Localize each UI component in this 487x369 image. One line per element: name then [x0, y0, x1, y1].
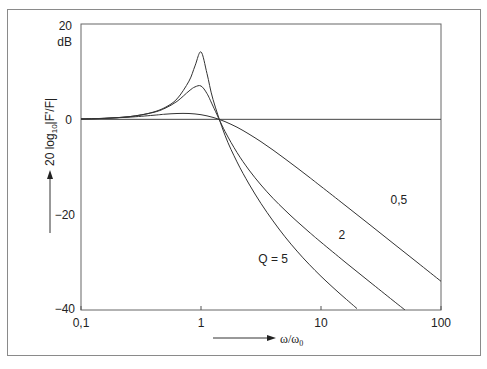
curve-label-0: Q = 5: [258, 252, 288, 266]
y-axis-arrow-icon: [47, 170, 53, 179]
y-tick-0: 0: [65, 113, 72, 127]
curves: [81, 52, 441, 310]
x-axis-title: ω/ω0: [213, 332, 303, 348]
y-unit-label: dB: [57, 35, 72, 49]
x-tick-0.1: 0,1: [73, 316, 90, 330]
plot-border: [81, 24, 441, 310]
curve-labels: Q = 520,5: [258, 193, 407, 266]
y-tick-20: 20: [59, 19, 73, 33]
x-axis-arrow-icon: [267, 335, 276, 341]
x-tick-100: 100: [431, 316, 451, 330]
plot-area: [81, 24, 441, 310]
y-axis-title-tail: |F'/F|: [43, 98, 57, 125]
x-axis-title-main: ω/ω: [280, 332, 299, 346]
y-tick-minus-20: −20: [55, 208, 76, 222]
x-tick-10: 10: [314, 316, 328, 330]
y-axis-title-main: 20 log: [43, 133, 57, 166]
bode-magnitude-chart: Q = 520,5 20 dB 0 −20 −40 0,1 1 10 100 2…: [0, 0, 487, 369]
svg-text:20 log10|F'/F|: 20 log10|F'/F|: [43, 98, 59, 166]
axis-ticks: [81, 306, 441, 310]
x-tick-1: 1: [198, 316, 205, 330]
curve-series-0: [81, 52, 357, 309]
curve-label-2: 0,5: [391, 193, 408, 207]
curve-label-1: 2: [339, 228, 346, 242]
y-tick-minus-40: −40: [55, 302, 76, 316]
x-axis-title-sub: 0: [299, 339, 303, 348]
svg-text:ω/ω0: ω/ω0: [280, 332, 303, 348]
